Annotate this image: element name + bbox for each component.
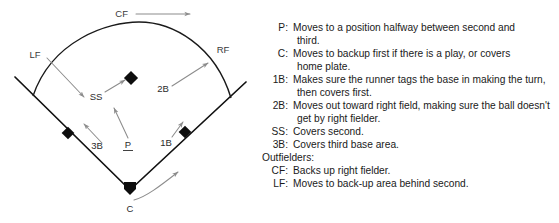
ss-movement-arrow	[105, 80, 125, 92]
outfield-fence-arc	[33, 22, 231, 98]
assignment-description: Covers third base area.	[293, 138, 554, 151]
assignment-description-line: Moves to back-up area behind second.	[293, 178, 469, 189]
p-movement-arrow	[114, 108, 128, 138]
field-label-2b: 2B	[157, 83, 169, 94]
assignment-list: P:Moves to a position halfway between se…	[262, 21, 554, 190]
assignment-description: Moves to a position halfway between seco…	[293, 21, 554, 47]
assignment-row: Outfielders:	[262, 151, 554, 164]
assignment-description-line: then covers first.	[293, 86, 554, 99]
assignment-description-line: Moves to backup first if there is a play…	[293, 48, 510, 59]
assignment-position-tag: 2B:	[262, 99, 293, 112]
assignment-row: C:Moves to backup first if there is a pl…	[262, 47, 554, 73]
assignment-position-tag: C:	[262, 47, 293, 60]
assignment-position-tag: CF:	[262, 164, 293, 177]
assignment-position-tag: 1B:	[262, 73, 293, 86]
assignment-position-tag: Outfielders:	[262, 151, 314, 164]
field-label-1b: 1B	[160, 137, 172, 148]
assignment-row: LF:Moves to back-up area behind second.	[262, 177, 554, 190]
2b-movement-arrow	[172, 63, 208, 86]
assignment-row: CF:Backs up right fielder.	[262, 164, 554, 177]
assignment-description-line: get by right fielder.	[293, 112, 554, 125]
assignment-row: P:Moves to a position halfway between se…	[262, 21, 554, 47]
field-diagram: CF LF RF SS 2B 3B 1B P C	[0, 0, 262, 223]
field-label-3b: 3B	[91, 140, 103, 151]
field-label-cf: CF	[115, 8, 128, 19]
assignment-description-line: Covers second.	[293, 126, 364, 137]
field-label-rf: RF	[217, 44, 230, 55]
assignment-row: 3B:Covers third base area.	[262, 138, 554, 151]
assignment-description-line: Moves out toward right field, making sur…	[293, 100, 550, 111]
assignment-position-tag: SS:	[262, 125, 293, 138]
assignment-description-line: Makes sure the runner tags the base in m…	[293, 74, 546, 85]
first-base	[179, 126, 192, 139]
assignment-description-line: Moves to a position halfway between seco…	[293, 22, 515, 33]
assignment-description: Moves out toward right field, making sur…	[293, 99, 554, 125]
assignment-row: 1B:Makes sure the runner tags the base i…	[262, 73, 554, 99]
home-plate	[124, 182, 136, 195]
assignment-position-tag: LF:	[262, 177, 293, 190]
screenshot-root: CF LF RF SS 2B 3B 1B P C P:Moves to a po…	[0, 0, 559, 223]
assignment-description-line: third.	[293, 34, 554, 47]
assignment-description: Covers second.	[293, 125, 554, 138]
assignment-row: SS:Covers second.	[262, 125, 554, 138]
assignment-description-line: Backs up right fielder.	[293, 165, 390, 176]
third-base	[62, 127, 75, 140]
field-diagram-svg: CF LF RF SS 2B 3B 1B P C	[0, 0, 262, 223]
assignment-description-line: Covers third base area.	[293, 139, 399, 150]
field-label-c: C	[127, 203, 134, 214]
assignment-description-line: home plate.	[293, 60, 554, 73]
c-movement-arrow	[134, 172, 178, 200]
assignment-description: Moves to back-up area behind second.	[293, 177, 554, 190]
assignment-description: Makes sure the runner tags the base in m…	[293, 73, 554, 99]
field-label-lf: LF	[29, 49, 40, 60]
right-foul-line	[130, 82, 246, 190]
lf-movement-arrow	[47, 58, 84, 97]
assignment-description: Moves to backup first if there is a play…	[293, 47, 554, 73]
assignment-description: Backs up right fielder.	[293, 164, 554, 177]
assignment-position-tag: 3B:	[262, 138, 293, 151]
assignment-row: 2B:Moves out toward right field, making …	[262, 99, 554, 125]
field-label-ss: SS	[90, 91, 103, 102]
second-base	[124, 71, 138, 85]
assignment-position-tag: P:	[262, 21, 293, 34]
field-label-p: P	[125, 139, 131, 150]
